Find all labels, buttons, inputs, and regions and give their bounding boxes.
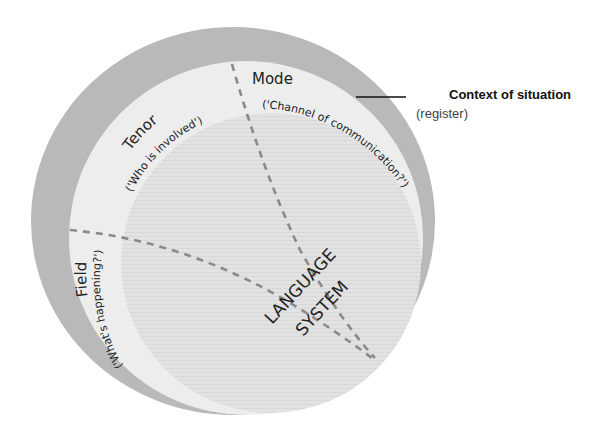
register-subtitle: (register) (416, 106, 468, 121)
field-label: Field (72, 261, 92, 298)
mode-label: Mode (252, 70, 293, 88)
context-of-situation-title: Context of situation (449, 87, 571, 102)
register-diagram: Mode ('Channel of communication?') Tenor… (0, 0, 591, 430)
